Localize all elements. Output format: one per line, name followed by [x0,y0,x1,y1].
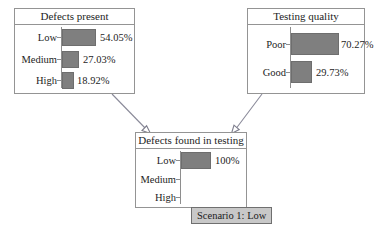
edge-testing-quality-to-defects-found [232,94,263,134]
tick-mark-good [286,72,290,73]
bar-label-high: High [138,193,176,204]
diagram-canvas: Defects present Low 54.05% Medium 27.03%… [0,0,378,235]
tick-mark-poor [286,44,290,45]
node-title-testing-quality: Testing quality [248,9,364,25]
node-title-defects-found-in-testing: Defects found in testing [136,133,246,149]
bar-high [62,72,74,89]
bar-value-good: 29.73% [316,68,348,79]
bar-label-good: Good [248,68,286,79]
tick-mark-medium [57,59,61,60]
node-body-defects-found: Low 100% Medium High [136,149,246,208]
tick-mark-high [57,80,61,81]
node-defects-found-in-testing[interactable]: Defects found in testing Low 100% Medium… [135,132,247,208]
edge-line [235,94,262,130]
bar-label-high: High [17,76,57,87]
bar-low [62,29,96,46]
bar-label-poor: Poor [250,40,286,51]
tick-mark-medium [176,179,180,180]
tick-mark-high [176,197,180,198]
scenario-badge[interactable]: Scenario 1: Low [191,207,272,224]
bar-chart-defects-found: Low 100% Medium High [136,149,246,208]
bar-poor [291,33,339,55]
tick-mark-low [57,37,61,38]
bar-value-medium: 27.03% [83,55,115,66]
node-defects-present[interactable]: Defects present Low 54.05% Medium 27.03%… [14,8,135,94]
bar-label-low: Low [138,156,176,167]
edge-line [112,94,147,130]
bar-label-low: Low [17,33,57,44]
bar-value-poor: 70.27% [341,40,373,51]
bar-value-low: 54.05% [100,33,132,44]
node-body-defects-present: Low 54.05% Medium 27.03% High 18.92% [15,25,134,94]
bar-medium [62,51,79,68]
bar-value-low: 100% [215,156,240,167]
bar-low [181,152,211,169]
edge-defects-present-to-defects-found [112,94,151,134]
bar-chart-testing-quality: Poor 70.27% Good 29.73% [248,25,364,94]
bar-value-high: 18.92% [77,76,109,87]
node-title-defects-present: Defects present [15,9,134,25]
node-testing-quality[interactable]: Testing quality Poor 70.27% Good 29.73% [247,8,365,94]
bar-good [291,61,312,83]
tick-mark-low [176,160,180,161]
bar-label-medium: Medium [15,55,57,66]
node-body-testing-quality: Poor 70.27% Good 29.73% [248,25,364,94]
bar-label-medium: Medium [136,175,176,186]
bar-chart-defects-present: Low 54.05% Medium 27.03% High 18.92% [15,25,134,94]
